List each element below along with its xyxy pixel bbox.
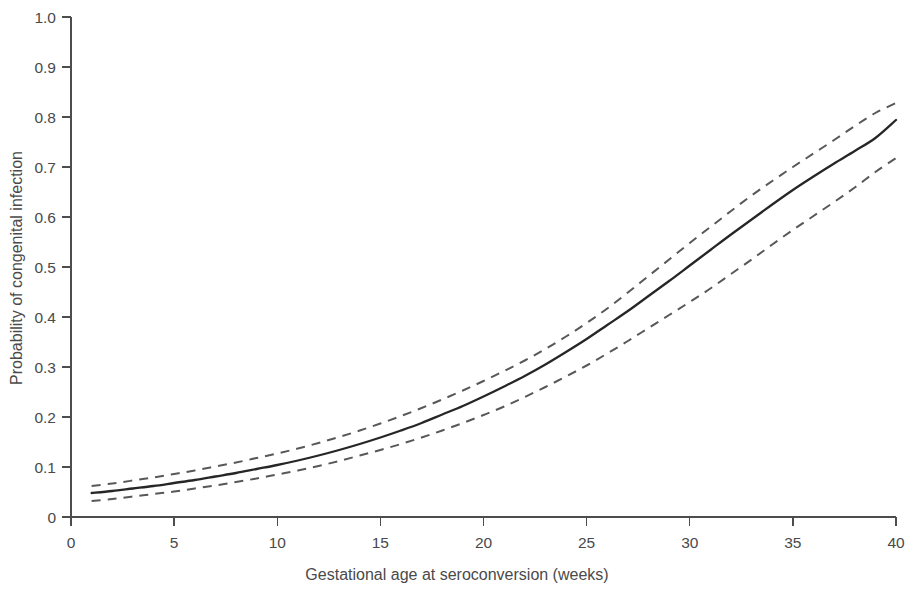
y-tick-label: 0 <box>47 509 56 526</box>
x-tick-label: 25 <box>578 534 595 551</box>
chart-figure: 00.10.20.30.40.50.60.70.80.91.0 05101520… <box>0 0 914 592</box>
x-axis-tick-group: 0510152025303540 <box>67 517 905 551</box>
y-tick-label: 0.2 <box>34 409 56 426</box>
x-tick-label: 30 <box>681 534 699 551</box>
y-tick-label: 0.1 <box>34 459 56 476</box>
fitted-probability-line <box>92 120 896 493</box>
x-axis-title: Gestational age at seroconversion (weeks… <box>305 566 608 583</box>
x-tick-label: 0 <box>67 534 76 551</box>
y-tick-label: 0.7 <box>34 159 56 176</box>
x-tick-label: 20 <box>475 534 493 551</box>
x-tick-label: 15 <box>372 534 389 551</box>
y-tick-label: 0.8 <box>34 109 56 126</box>
y-tick-label: 1.0 <box>34 9 56 26</box>
confidence-interval-line <box>92 158 896 501</box>
confidence-interval-line <box>92 103 896 486</box>
y-axis-tick-group: 00.10.20.30.40.50.60.70.80.91.0 <box>34 9 71 526</box>
x-tick-label: 10 <box>269 534 287 551</box>
probability-line-chart: 00.10.20.30.40.50.60.70.80.91.0 05101520… <box>0 0 914 592</box>
x-tick-label: 5 <box>170 534 179 551</box>
data-series-group <box>92 103 896 501</box>
y-tick-label: 0.3 <box>34 359 56 376</box>
x-tick-label: 35 <box>784 534 801 551</box>
y-tick-label: 0.4 <box>34 309 56 326</box>
x-tick-label: 40 <box>887 534 905 551</box>
y-tick-label: 0.9 <box>34 59 56 76</box>
y-tick-label: 0.6 <box>34 209 56 226</box>
y-tick-label: 0.5 <box>34 259 56 276</box>
y-axis-title: Probability of congenital infection <box>8 151 25 385</box>
